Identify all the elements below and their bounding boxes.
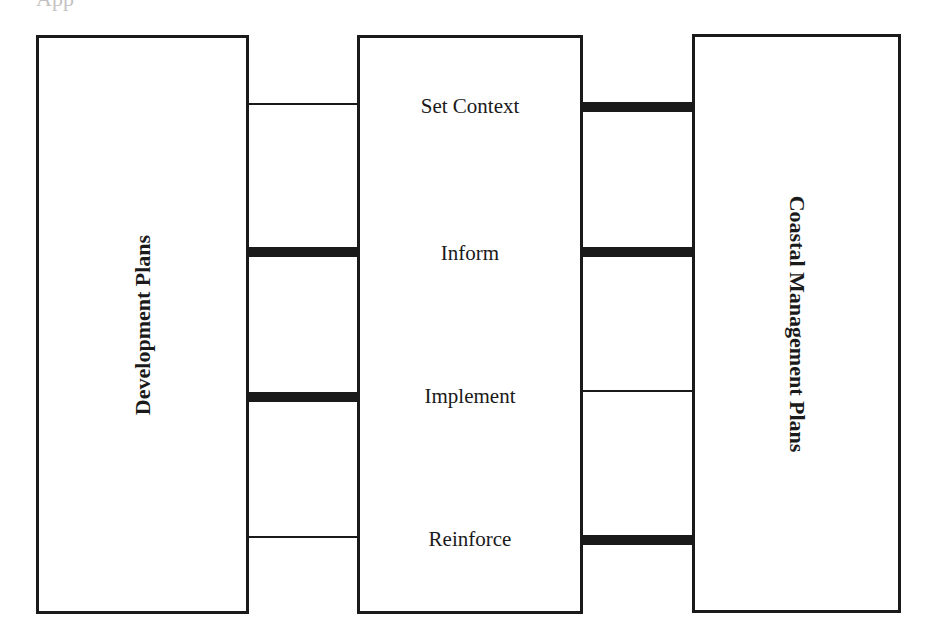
process-stages-box: Set Context Inform Implement Reinforce [357, 35, 583, 614]
coastal-management-plans-label: Coastal Management Plans [784, 195, 810, 452]
connector-left-set-context [248, 103, 358, 105]
connector-right-inform [582, 247, 693, 257]
connector-left-inform [248, 247, 358, 257]
development-plans-box: Development Plans [36, 35, 249, 614]
connector-left-reinforce [248, 536, 358, 538]
clipped-heading-fragment: App [36, 0, 74, 12]
stage-set-context: Set Context [360, 93, 580, 119]
connector-right-implement [582, 390, 693, 392]
development-plans-label: Development Plans [130, 234, 156, 414]
connector-right-set-context [582, 102, 693, 112]
coastal-management-plans-box: Coastal Management Plans [692, 34, 901, 613]
connector-left-implement [248, 392, 358, 402]
stage-inform: Inform [360, 240, 580, 266]
stage-reinforce: Reinforce [360, 526, 580, 552]
stage-implement: Implement [360, 383, 580, 409]
connector-right-reinforce [582, 535, 693, 545]
